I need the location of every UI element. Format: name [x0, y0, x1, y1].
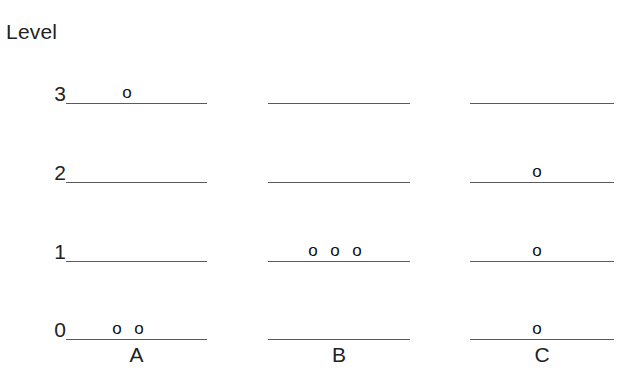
electron-a-level-0: o [110, 320, 124, 337]
electron-b-level-1: o [328, 242, 342, 259]
level-label-3: 3 [44, 83, 66, 104]
electron-c-level-0: o [530, 320, 544, 337]
level-line-b-0 [268, 339, 410, 340]
electron-c-level-2: o [530, 163, 544, 180]
electron-a-level-0: o [132, 320, 146, 337]
electron-b-level-1: o [350, 242, 364, 259]
level-line-c-2 [470, 182, 614, 183]
column-label-b: B [324, 344, 354, 365]
level-line-c-1 [470, 261, 614, 262]
level-line-a-0 [66, 339, 207, 340]
axis-title-level: Level [6, 20, 57, 44]
electron-c-level-1: o [530, 242, 544, 259]
column-label-c: C [527, 344, 557, 365]
energy-level-diagram: Level 3 2 1 0 ooooooooo ABC [0, 0, 636, 384]
level-line-a-1 [66, 261, 207, 262]
column-label-a: A [122, 344, 152, 365]
level-line-a-3 [66, 103, 207, 104]
electron-a-level-3: o [120, 84, 134, 101]
level-label-1: 1 [44, 241, 66, 262]
level-line-b-2 [268, 182, 410, 183]
level-line-b-3 [268, 103, 410, 104]
level-line-a-2 [66, 182, 207, 183]
electron-b-level-1: o [306, 242, 320, 259]
level-line-c-3 [470, 103, 614, 104]
level-line-b-1 [268, 261, 410, 262]
level-label-0: 0 [44, 319, 66, 340]
level-line-c-0 [470, 339, 614, 340]
level-label-2: 2 [44, 162, 66, 183]
